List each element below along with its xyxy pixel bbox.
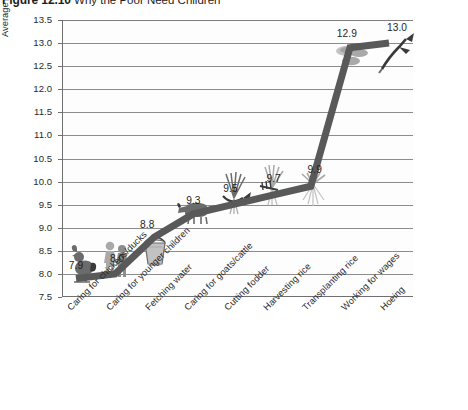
y-tick-label: 8.5 <box>22 246 52 256</box>
data-value-label: 9.3 <box>186 195 200 206</box>
y-tick-label: 11.0 <box>22 130 52 140</box>
y-tick-label: 10.0 <box>22 177 52 187</box>
y-axis-title-text: Average Age at Which Activity Begins <box>0 0 10 74</box>
data-value-label: 13.0 <box>387 22 407 33</box>
y-tick-label: 10.5 <box>22 154 52 164</box>
y-tick-label: 8.0 <box>22 269 52 279</box>
y-tick-label: 7.5 <box>22 292 52 302</box>
y-tick-mark <box>58 297 62 298</box>
y-tick-label: 9.5 <box>22 200 52 210</box>
y-tick-label: 13.0 <box>22 38 52 48</box>
data-value-label: 9.9 <box>308 164 322 175</box>
data-value-label: 8.0 <box>110 253 124 264</box>
y-axis-title: Average Age at Which Activity Begins <box>0 0 14 74</box>
figure-caption: Figure 12.10 Why the Poor Need Children <box>2 0 220 7</box>
data-value-label: 12.9 <box>337 28 357 39</box>
y-tick-label: 11.5 <box>22 107 52 117</box>
plot-area: 7.98.08.89.39.59.79.912.913.0 <box>62 20 413 297</box>
data-value-label: 9.5 <box>223 183 237 194</box>
data-value-label: 7.9 <box>69 260 83 271</box>
y-tick-label: 12.5 <box>22 61 52 71</box>
data-value-label: 8.8 <box>140 219 154 230</box>
y-tick-label: 12.0 <box>22 84 52 94</box>
y-tick-label: 9.0 <box>22 223 52 233</box>
figure-title: Why the Poor Need Children <box>74 0 220 6</box>
data-value-label: 9.7 <box>266 173 280 184</box>
y-tick-label: 13.5 <box>22 15 52 25</box>
